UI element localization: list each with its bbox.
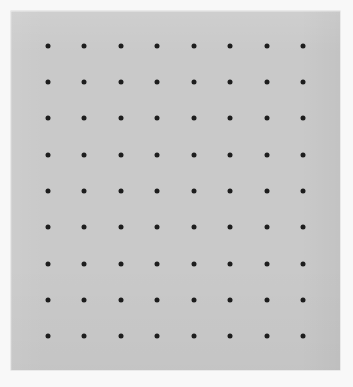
grid-dot [46,153,51,158]
grid-dot [301,225,306,230]
grid-dot [192,262,197,267]
grid-dot [265,44,270,49]
grid-dot [265,116,270,121]
grid-dot [119,44,124,49]
grid-dot [119,80,124,85]
grid-dot [192,153,197,158]
grid-dot [155,262,160,267]
grid-dot [82,334,87,339]
grid-dot [119,189,124,194]
grid-dot [46,225,51,230]
grid-dot [119,153,124,158]
grid-dot [301,44,306,49]
grid-dot [265,153,270,158]
grid-dot [155,80,160,85]
grid-dot [155,189,160,194]
grid-dot [228,44,233,49]
grid-dot [228,225,233,230]
grid-dot [192,80,197,85]
grid-dot [228,298,233,303]
grid-dot [46,80,51,85]
grid-dot [228,262,233,267]
grid-dot [119,262,124,267]
grid-dot [119,298,124,303]
grid-dot [82,298,87,303]
grid-dot [119,334,124,339]
grid-dot [301,153,306,158]
grid-dot [155,44,160,49]
grid-dot [155,298,160,303]
grid-dot [192,116,197,121]
grid-dot [192,298,197,303]
grid-dot [265,189,270,194]
grid-dot [155,225,160,230]
grid-dot [82,116,87,121]
grid-dot [228,189,233,194]
grid-dot [192,225,197,230]
grid-dot [119,116,124,121]
grid-dot [119,225,124,230]
grid-dot [301,298,306,303]
paper-sheet [11,11,340,370]
grid-dot [82,225,87,230]
grid-dot [228,153,233,158]
grid-dot [228,334,233,339]
grid-dot [265,225,270,230]
grid-dot [192,189,197,194]
grid-dot [155,334,160,339]
grid-dot [228,80,233,85]
grid-dot [46,298,51,303]
grid-dot [301,116,306,121]
grid-dot [82,153,87,158]
grid-dot [192,44,197,49]
grid-dot [265,262,270,267]
grid-dot [228,116,233,121]
grid-dot [265,298,270,303]
grid-dot [155,116,160,121]
grid-dot [46,262,51,267]
grid-dot [46,44,51,49]
grid-dot [82,189,87,194]
grid-dot [301,262,306,267]
grid-dot [46,334,51,339]
grid-dot [46,116,51,121]
grid-dot [265,80,270,85]
grid-dot [155,153,160,158]
grid-dot [82,262,87,267]
grid-dot [265,334,270,339]
grid-dot [82,44,87,49]
grid-dot [301,334,306,339]
grid-dot [46,189,51,194]
scene [0,0,353,387]
grid-dot [192,334,197,339]
dot-grid [11,11,340,370]
grid-dot [82,80,87,85]
grid-dot [301,80,306,85]
grid-dot [301,189,306,194]
